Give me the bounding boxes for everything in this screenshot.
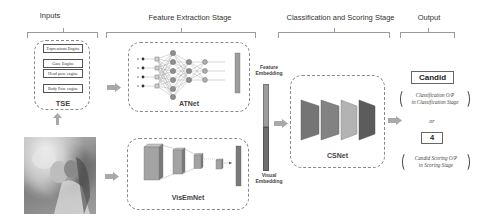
output-bracket [400,32,455,38]
cnn-blocks-icon [128,141,248,197]
inputs-bracket [27,32,98,38]
engine-expressions: Expressions Engine [43,44,83,53]
stage-title-feature-extraction: Feature Extraction Stage [140,13,240,22]
visemnet-label: VisEmNet [128,194,248,201]
stage-title-output: Output [405,13,453,22]
visual-embedding-bar [263,127,269,171]
stage-title-inputs: Inputs [30,11,70,20]
visual-embedding-label: Visual Embedding [252,172,286,184]
tse-box: Expressions Engine Gaze Engine Head pose… [34,40,90,110]
atnet-box: ATNet [128,42,250,112]
tse-label: TSE [35,99,91,108]
arrow-right-icon [274,119,288,128]
classification-output-note: Classification O/P in Classification Sta… [406,92,464,106]
feature-extraction-bracket [106,32,256,38]
arrow-right-icon [388,116,402,125]
arrow-right-icon [105,172,119,181]
classification-scoring-bracket [278,32,390,38]
arrow-right-icon [107,83,121,92]
atnet-label: ATNet [129,100,249,107]
arrow-up-icon [53,113,62,125]
input-image [24,137,96,214]
csnet-label: CSNet [291,152,384,159]
engine-head-pose: Head pose engine [43,69,83,78]
score-output-value: 4 [421,132,443,144]
engine-body-pose: Body Pose engine [43,84,83,93]
feature-embedding-bar [263,84,269,127]
csnet-box: CSNet [290,75,385,168]
stage-title-classification-scoring: Classification and Scoring Stage [278,13,403,22]
feature-embedding-label: Feature Embedding [252,64,286,76]
or-label: or [420,118,444,124]
csnet-layers-icon [291,88,384,158]
engine-gaze: Gaze Engine [43,59,83,68]
score-output-note: Candid Scoring O/P in Scoring Stage [408,155,464,169]
neural-network-icon [129,45,249,101]
visemnet-box: VisEmNet [127,138,249,210]
classification-output-value: Candid [411,71,454,84]
